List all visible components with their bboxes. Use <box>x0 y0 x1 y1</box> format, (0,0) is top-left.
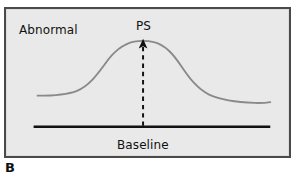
figure-label-b: B <box>5 161 15 174</box>
abnormal-waveform-curve <box>38 41 271 103</box>
diagram-panel: Abnormal PS Baseline <box>4 7 291 158</box>
condition-label: Abnormal <box>19 24 78 36</box>
peak-systolic-label: PS <box>136 20 151 32</box>
baseline-label: Baseline <box>117 139 169 151</box>
